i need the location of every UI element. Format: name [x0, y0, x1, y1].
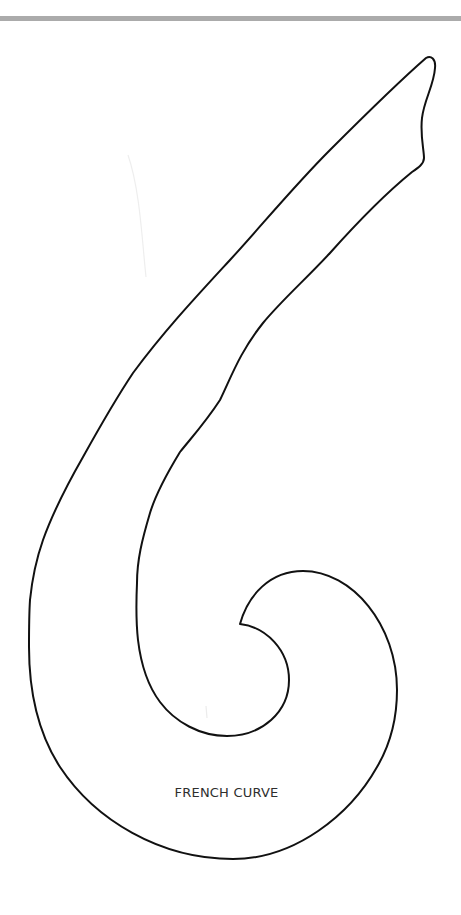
- template-label: FRENCH CURVE: [0, 785, 453, 800]
- scan-artifact: [206, 706, 207, 718]
- scan-artifact: [128, 155, 146, 277]
- french-curve-diagram: [0, 0, 461, 915]
- french-curve-outline: [29, 57, 435, 859]
